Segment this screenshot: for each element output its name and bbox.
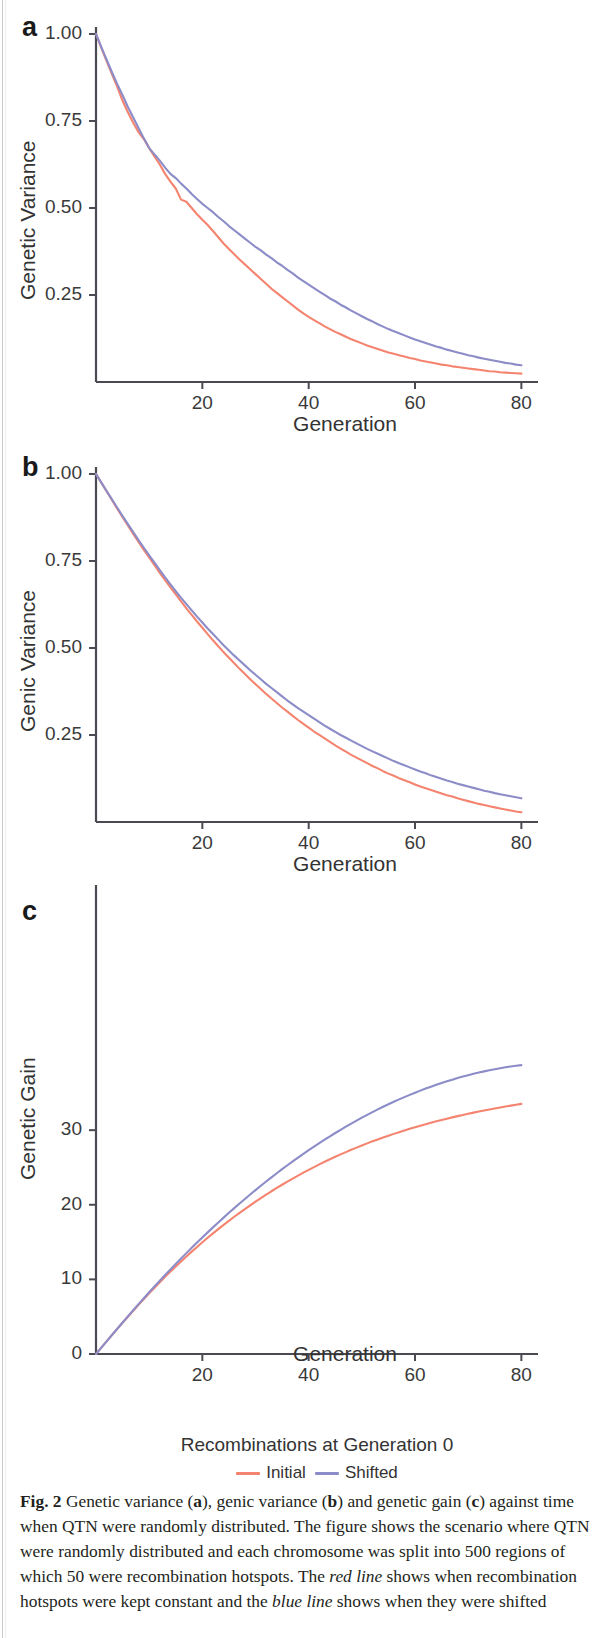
- legend-title: Recombinations at Generation 0: [12, 1434, 610, 1456]
- caption-span: ), genic variance (: [202, 1491, 328, 1511]
- y-tick-label: 0.50: [20, 196, 82, 218]
- panel-c-letter: c: [22, 898, 37, 925]
- caption-span: red line: [329, 1566, 382, 1586]
- caption-span: shows when they were shifted: [332, 1591, 546, 1611]
- y-tick-label: 1.00: [20, 22, 82, 44]
- panel-a-plot: [0, 0, 610, 400]
- panel-c-x-axis-label: Generation: [40, 1342, 610, 1366]
- figure-page: a Genetic Variance Generation 204060800.…: [0, 0, 610, 1638]
- series-line-initial: [96, 474, 521, 812]
- x-tick-label: 80: [505, 832, 537, 854]
- panel-a: a Genetic Variance Generation 204060800.…: [0, 0, 610, 440]
- y-tick-label: 1.00: [20, 462, 82, 484]
- y-tick-label: 0.50: [20, 636, 82, 658]
- series-line-shifted: [96, 474, 521, 798]
- x-tick-label: 40: [293, 392, 325, 414]
- caption-span: ) and genetic gain (: [337, 1491, 471, 1511]
- caption-span: b: [328, 1491, 338, 1511]
- y-tick-label: 0.75: [20, 549, 82, 571]
- panel-b-y-axis-label: Genic Variance: [16, 590, 40, 732]
- x-tick-label: 20: [186, 832, 218, 854]
- legend-swatch-shifted-icon: [315, 1472, 339, 1475]
- y-tick-label: 0.25: [20, 723, 82, 745]
- x-tick-label: 60: [399, 392, 431, 414]
- series-line-shifted: [96, 34, 521, 365]
- caption-span: Fig. 2: [20, 1491, 62, 1511]
- x-tick-label: 20: [186, 392, 218, 414]
- x-tick-label: 80: [505, 1364, 537, 1386]
- panel-b: b Genic Variance Generation 204060800.25…: [0, 440, 610, 880]
- caption-span: Genetic variance (: [62, 1491, 194, 1511]
- y-tick-label: 0.25: [20, 283, 82, 305]
- y-tick-label: 20: [20, 1193, 82, 1215]
- x-tick-label: 40: [293, 1364, 325, 1386]
- caption-span: blue line: [272, 1591, 332, 1611]
- caption-span: a: [193, 1491, 202, 1511]
- legend-swatch-initial-icon: [236, 1472, 260, 1475]
- panel-c: c Genetic Gain Generation 20406080010203…: [0, 880, 610, 1380]
- panel-a-x-axis-label: Generation: [40, 412, 610, 436]
- y-tick-label: 30: [20, 1118, 82, 1140]
- panel-c-plot: [0, 880, 610, 1380]
- y-tick-label: 0: [20, 1342, 82, 1364]
- x-tick-label: 20: [186, 1364, 218, 1386]
- series-line-shifted: [96, 1065, 521, 1354]
- legend-label-initial: Initial: [266, 1463, 306, 1483]
- series-line-initial: [96, 1104, 521, 1354]
- series-line-initial: [96, 34, 521, 374]
- legend-item-initial[interactable]: Initial: [236, 1463, 306, 1483]
- legend-item-shifted[interactable]: Shifted: [315, 1463, 398, 1483]
- legend-label-shifted: Shifted: [345, 1463, 398, 1483]
- legend: Initial Shifted: [12, 1463, 610, 1483]
- panel-b-x-axis-label: Generation: [40, 852, 610, 876]
- y-tick-label: 10: [20, 1267, 82, 1289]
- figure-caption: Fig. 2 Genetic variance (a), genic varia…: [20, 1489, 594, 1614]
- x-tick-label: 80: [505, 392, 537, 414]
- panel-b-plot: [0, 440, 610, 840]
- y-tick-label: 0.75: [20, 109, 82, 131]
- x-tick-label: 60: [399, 832, 431, 854]
- panel-a-y-axis-label: Genetic Variance: [16, 140, 40, 300]
- x-tick-label: 40: [293, 832, 325, 854]
- x-tick-label: 60: [399, 1364, 431, 1386]
